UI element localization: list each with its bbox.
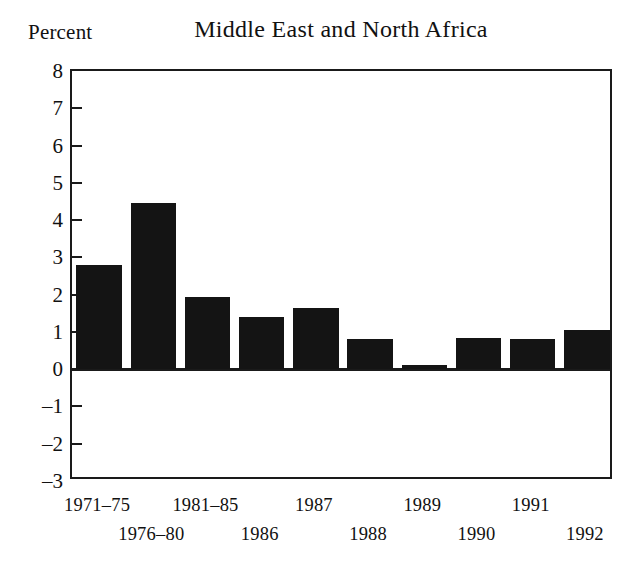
y-tick-label: 4 — [53, 208, 64, 233]
bar — [402, 365, 447, 369]
x-tick-label: 1991 — [512, 495, 550, 516]
x-tick-label: 1971–75 — [64, 495, 130, 516]
bar — [347, 339, 392, 369]
y-tick-label: 5 — [53, 170, 64, 195]
bar — [564, 330, 609, 369]
y-tick-label: 3 — [53, 245, 64, 270]
bar — [456, 338, 501, 370]
y-tick-label: 7 — [53, 96, 64, 121]
bar — [131, 203, 176, 369]
x-tick-label: 1992 — [566, 524, 604, 545]
y-tick-label: 2 — [53, 282, 64, 307]
y-tick-label: –2 — [42, 431, 63, 456]
y-tick-label: –1 — [42, 394, 63, 419]
x-tick-label: 1981–85 — [172, 495, 238, 516]
bar — [293, 308, 338, 370]
y-tick-label: 1 — [53, 319, 64, 344]
chart-title: Middle East and North Africa — [70, 16, 612, 43]
y-tick-label: 8 — [53, 59, 64, 84]
bar — [510, 339, 555, 369]
plot-area: 876543210–1–2–3 — [70, 69, 612, 479]
bar — [239, 317, 284, 369]
x-tick-label: 1990 — [458, 524, 496, 545]
y-tick-label: –3 — [42, 469, 63, 494]
x-tick-label: 1989 — [403, 495, 441, 516]
bar — [76, 265, 121, 369]
chart-figure: Percent Middle East and North Africa 876… — [0, 0, 636, 561]
y-tick-label: 6 — [53, 133, 64, 158]
x-tick-label: 1976–80 — [118, 524, 184, 545]
bar-series — [72, 71, 610, 477]
x-axis-labels: 1971–751976–801981–851986198719881989199… — [70, 479, 612, 561]
x-tick-label: 1988 — [349, 524, 387, 545]
x-tick-label: 1986 — [241, 524, 279, 545]
bar — [185, 297, 230, 370]
x-tick-label: 1987 — [295, 495, 333, 516]
y-tick-label: 0 — [53, 357, 64, 382]
